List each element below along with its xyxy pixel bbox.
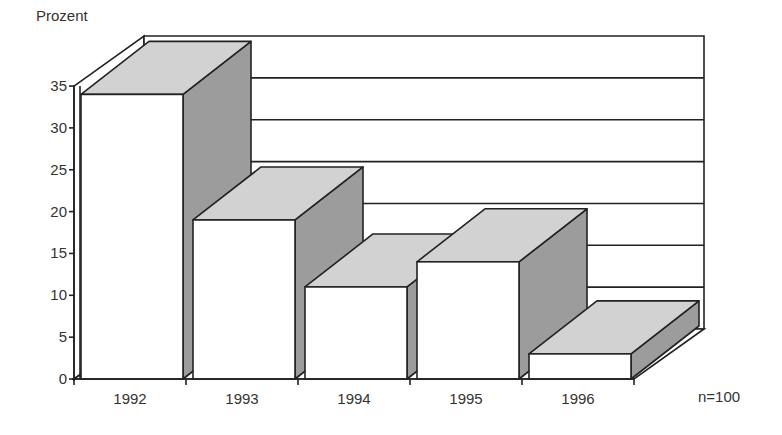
bar-chart-3d: 05101520253035 19921993199419951996 Proz… [0, 0, 782, 435]
bar-front [193, 220, 295, 379]
y-axis-title: Prozent [36, 7, 89, 24]
y-tick-label: 15 [50, 244, 67, 261]
bar-front [529, 354, 631, 379]
y-axis-ticks: 05101520253035 [50, 77, 74, 387]
y-tick-label: 0 [59, 370, 67, 387]
y-tick-label: 10 [50, 286, 67, 303]
y-tick-label: 25 [50, 161, 67, 178]
bar-front [417, 262, 519, 379]
x-tick-label: 1995 [449, 390, 482, 407]
y-tick-label: 20 [50, 203, 67, 220]
y-tick-label: 30 [50, 119, 67, 136]
x-tick-label: 1996 [561, 390, 594, 407]
x-tick-label: 1993 [225, 390, 258, 407]
bar-front [305, 287, 407, 379]
sample-size-annotation: n=100 [698, 388, 740, 405]
x-axis-ticks: 19921993199419951996 [74, 379, 634, 407]
x-tick-label: 1994 [337, 390, 370, 407]
x-tick-label: 1992 [113, 390, 146, 407]
y-tick-label: 5 [59, 328, 67, 345]
bar-front [81, 94, 183, 379]
y-tick-label: 35 [50, 77, 67, 94]
